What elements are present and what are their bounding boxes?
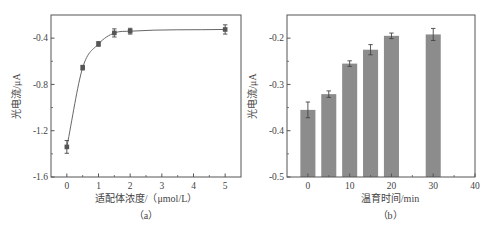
chart-b-x-axis-title: 温育时间/min: [361, 192, 419, 204]
chart-b-photocurrent-vs-incubation-time: -0.5-0.4-0.3-0.2 010203040 光电流/μA 温育时间/m…: [246, 15, 480, 221]
x-tick-label: 20: [387, 181, 397, 191]
data-point-square-marker: [80, 65, 85, 70]
chart-a-caption: （a）: [134, 210, 158, 221]
figure-canvas: -1.6-1.2-0.8-0.4 012345 光电流/μA 适配体浓度/（μm…: [0, 0, 490, 236]
y-tick-label: -1.2: [33, 126, 48, 136]
data-point-square-marker: [112, 31, 117, 36]
x-tick-label: 0: [306, 181, 311, 191]
x-tick-label: 0: [64, 181, 69, 191]
bar: [426, 34, 441, 177]
data-point-square-marker: [223, 27, 228, 32]
bar: [300, 110, 315, 177]
data-point-square-marker: [65, 145, 70, 150]
fit-curve: [67, 29, 225, 146]
chart-a-x-axis-title: 适配体浓度/（μmol/L）: [95, 192, 198, 204]
x-tick-label: 30: [428, 181, 438, 191]
bar: [342, 64, 357, 177]
chart-a-series: [65, 25, 228, 153]
x-tick-label: 5: [223, 181, 228, 191]
data-point-square-marker: [96, 42, 101, 47]
y-tick-label: -0.4: [33, 33, 48, 43]
chart-b-caption: （b）: [378, 210, 403, 221]
chart-a-y-axis-title: 光电流/μA: [10, 73, 22, 119]
y-tick-label: -1.6: [33, 172, 48, 182]
x-tick-label: 1: [96, 181, 101, 191]
x-tick-label: 10: [345, 181, 355, 191]
bar: [321, 94, 336, 177]
x-tick-label: 2: [128, 181, 133, 191]
chart-b-y-axis-title: 光电流/μA: [246, 73, 258, 119]
bar: [384, 36, 399, 177]
x-tick-label: 4: [191, 181, 196, 191]
bar: [363, 50, 378, 177]
y-tick-label: -0.3: [269, 80, 284, 90]
y-tick-label: -0.8: [33, 80, 48, 90]
data-point-square-marker: [128, 29, 133, 34]
figure: -1.6-1.2-0.8-0.4 012345 光电流/μA 适配体浓度/（μm…: [0, 0, 490, 236]
chart-a-x-axis: 012345: [64, 174, 227, 192]
chart-a-plot-frame: [51, 15, 241, 177]
chart-a-photocurrent-vs-aptamer-concentration: -1.6-1.2-0.8-0.4 012345 光电流/μA 适配体浓度/（μm…: [10, 15, 241, 221]
y-tick-label: -0.5: [269, 172, 284, 182]
x-tick-label: 40: [470, 181, 480, 191]
x-tick-label: 3: [159, 181, 164, 191]
y-tick-label: -0.2: [269, 33, 284, 43]
chart-b-bars: [300, 28, 440, 177]
y-tick-label: -0.4: [269, 126, 284, 136]
